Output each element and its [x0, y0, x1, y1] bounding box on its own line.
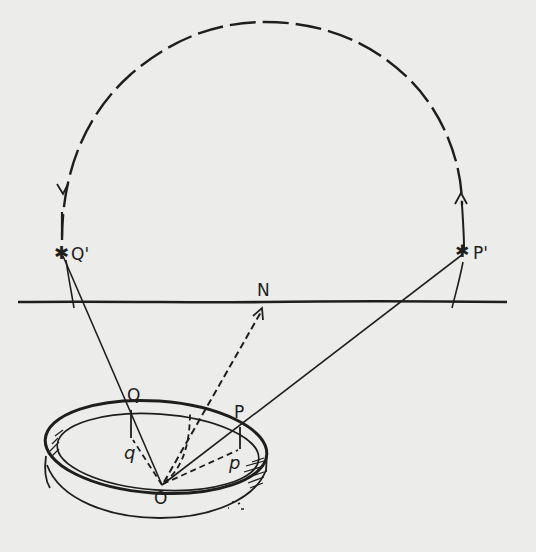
label-P-prime: P'	[473, 245, 488, 262]
dashed-O-q	[133, 440, 162, 485]
ray-O-P-Pprime	[162, 254, 463, 485]
label-q: q	[124, 444, 135, 462]
star-icon-Pprime: ✱	[455, 243, 469, 260]
dashed-O-mid	[164, 412, 190, 483]
label-Q-prime: Q'	[71, 246, 89, 263]
label-O: O	[154, 490, 167, 507]
horizon-line	[18, 301, 507, 302]
label-p: p	[229, 454, 240, 472]
label-P: P	[234, 404, 244, 421]
dashed-arrow-O-N	[164, 312, 261, 482]
ray-O-Q-Qprime	[63, 256, 162, 485]
diagram-drawing	[0, 0, 536, 552]
label-N: N	[257, 282, 270, 299]
diagram-canvas: ✱ ✱ Q' P' N Q P q p O	[0, 0, 536, 552]
star-icon-Qprime: ✱	[54, 244, 69, 262]
dashed-path-arc	[62, 22, 464, 248]
label-Q: Q	[127, 387, 140, 404]
